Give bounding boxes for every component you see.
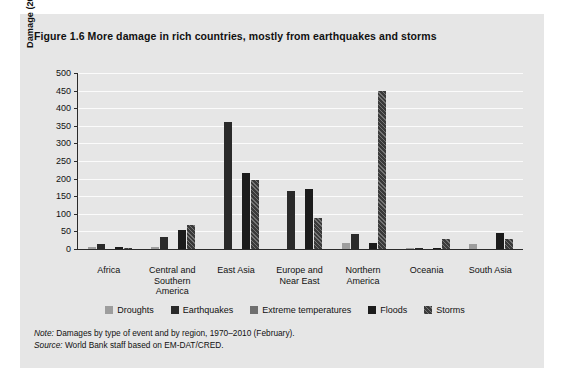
bar-floods — [242, 173, 250, 249]
bar-group — [78, 73, 142, 249]
bar-group — [459, 73, 523, 249]
x-tick-label-line: America — [331, 276, 395, 287]
bar-storms — [314, 218, 322, 249]
x-tick-label-line: Africa — [77, 265, 141, 276]
bar-earthquakes — [97, 244, 105, 249]
x-tick-label: Europe andNear East — [268, 265, 332, 286]
source-label: Source: — [34, 340, 63, 350]
x-tick-label: South Asia — [458, 265, 522, 276]
legend-swatch-icon — [424, 306, 432, 314]
x-tick-label-line: Southern — [141, 276, 205, 287]
x-tick-label-line: South Asia — [458, 265, 522, 276]
x-tick-label-line: Near East — [268, 276, 332, 287]
y-tick-label: 300 — [56, 138, 71, 148]
y-axis-title: Damage (2008 $, billions) — [25, 0, 35, 73]
bar-group — [142, 73, 206, 249]
x-tick-label-line: America — [141, 286, 205, 297]
figure-card: Figure 1.6 More damage in rich countries… — [20, 14, 544, 368]
note-line: Note: Damages by type of event and by re… — [34, 328, 295, 340]
y-tick-label: 450 — [56, 86, 71, 96]
bar-earthquakes — [224, 122, 232, 249]
bar-droughts — [342, 243, 350, 249]
bar-storms — [187, 225, 195, 249]
x-tick-label: Africa — [77, 265, 141, 276]
bar-droughts — [151, 247, 159, 249]
source-line: Source: World Bank staff based on EM-DAT… — [34, 340, 295, 352]
bar-storms — [505, 239, 513, 249]
x-tick-label-line: Central and — [141, 265, 205, 276]
bar-storms — [251, 180, 259, 249]
figure-notes: Note: Damages by type of event and by re… — [34, 328, 295, 351]
bar-group — [269, 73, 333, 249]
bar-floods — [433, 248, 441, 249]
bar-droughts — [469, 244, 477, 249]
y-tick-label: 0 — [66, 244, 71, 254]
y-tick-label: 150 — [56, 191, 71, 201]
bar-droughts — [406, 248, 414, 249]
bar-storms — [124, 248, 132, 249]
bar-floods — [115, 247, 123, 249]
bar-group — [396, 73, 460, 249]
bar-earthquakes — [287, 191, 295, 249]
chart-area: 500450400350300250200150100500 — [77, 59, 522, 263]
bar-earthquakes — [351, 234, 359, 249]
page-title: Figure 1.6 More damage in rich countries… — [34, 30, 437, 42]
x-tick-label: East Asia — [204, 265, 268, 276]
x-tick-label-line: Europe and — [268, 265, 332, 276]
source-text: World Bank staff based on EM-DAT/CRED. — [63, 340, 224, 350]
x-tick-label: NorthernAmerica — [331, 265, 395, 286]
legend-item-extreme[interactable]: Extreme temperatures — [250, 305, 351, 315]
y-tick-label: 100 — [56, 209, 71, 219]
legend-label: Droughts — [117, 305, 154, 315]
legend-swatch-icon — [105, 306, 113, 314]
y-tick-label: 50 — [61, 226, 71, 236]
y-tick-label: 350 — [56, 121, 71, 131]
legend-item-earthquakes[interactable]: Earthquakes — [171, 305, 234, 315]
bar-storms — [378, 91, 386, 249]
note-text: Damages by type of event and by region, … — [54, 328, 295, 338]
y-tick-label: 250 — [56, 156, 71, 166]
legend-item-storms[interactable]: Storms — [424, 305, 465, 315]
bar-earthquakes — [415, 248, 423, 249]
x-tick-label-line: East Asia — [204, 265, 268, 276]
legend-label: Storms — [436, 305, 465, 315]
y-tick-mark — [74, 249, 78, 250]
x-tick-label-line: Northern — [331, 265, 395, 276]
x-tick-label: Oceania — [395, 265, 459, 276]
legend-label: Earthquakes — [183, 305, 234, 315]
note-label: Note: — [34, 328, 54, 338]
legend-item-droughts[interactable]: Droughts — [105, 305, 154, 315]
bar-droughts — [88, 247, 96, 249]
bar-floods — [178, 230, 186, 249]
bar-group — [332, 73, 396, 249]
bar-floods — [305, 189, 313, 249]
x-tick-label-line: Oceania — [395, 265, 459, 276]
legend-label: Floods — [380, 305, 407, 315]
bar-earthquakes — [160, 237, 168, 249]
bar-floods — [496, 233, 504, 249]
bar-floods — [369, 243, 377, 249]
legend-label: Extreme temperatures — [262, 305, 351, 315]
bar-group — [205, 73, 269, 249]
y-tick-label: 400 — [56, 103, 71, 113]
chart-legend: DroughtsEarthquakesExtreme temperaturesF… — [50, 305, 520, 315]
y-tick-label: 500 — [56, 68, 71, 78]
y-tick-label: 200 — [56, 174, 71, 184]
legend-item-floods[interactable]: Floods — [368, 305, 407, 315]
legend-swatch-icon — [368, 306, 376, 314]
legend-swatch-icon — [171, 306, 179, 314]
plot-area: 500450400350300250200150100500 — [77, 73, 523, 250]
bar-storms — [442, 239, 450, 249]
x-tick-label: Central andSouthernAmerica — [141, 265, 205, 297]
legend-swatch-icon — [250, 306, 258, 314]
